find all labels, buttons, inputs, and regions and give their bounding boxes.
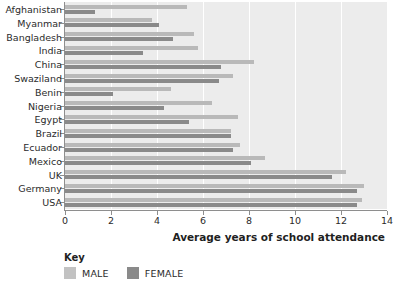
bar-mexico-male — [65, 156, 265, 160]
bar-egypt-female — [65, 120, 189, 124]
bar-bangladesh-male — [65, 32, 194, 36]
x-axis-title: Average years of school attendance — [0, 231, 385, 243]
bar-myanmar-female — [65, 23, 159, 27]
category-label-nigeria: Nigeria — [28, 100, 62, 111]
bar-myanmar-male — [65, 18, 152, 22]
bar-egypt-male — [65, 115, 238, 119]
bar-chart: 02468101214 AfghanistanMyanmarBangladesh… — [0, 0, 393, 289]
bar-usa-female — [65, 203, 357, 207]
category-label-uk: UK — [49, 169, 62, 180]
x-tick-label: 0 — [62, 215, 68, 226]
bar-nigeria-male — [65, 101, 212, 105]
category-label-china: China — [35, 59, 62, 70]
category-label-egypt: Egypt — [35, 114, 62, 125]
bar-ecuador-female — [65, 148, 233, 152]
bar-benin-male — [65, 87, 171, 91]
legend-label-female: FEMALE — [145, 268, 184, 279]
category-label-germany: Germany — [18, 183, 62, 194]
x-axis-line — [64, 210, 387, 211]
legend-item-female[interactable]: FEMALE — [127, 267, 184, 279]
legend-items: MALEFEMALE — [64, 267, 183, 279]
gridline — [387, 2, 388, 209]
category-label-benin: Benin — [35, 86, 62, 97]
bar-swaziland-female — [65, 79, 219, 83]
bar-brazil-female — [65, 134, 231, 138]
x-tick-label: 14 — [381, 215, 393, 226]
legend: Key MALEFEMALE — [64, 252, 183, 279]
bar-swaziland-male — [65, 74, 233, 78]
category-label-india: India — [39, 45, 62, 56]
x-tick-label: 12 — [335, 215, 347, 226]
x-tick-label: 6 — [200, 215, 206, 226]
bar-india-female — [65, 51, 143, 55]
legend-title: Key — [64, 252, 183, 263]
x-tick-label: 8 — [246, 215, 252, 226]
bar-afghanistan-female — [65, 10, 95, 14]
bar-uk-male — [65, 170, 346, 174]
bar-china-male — [65, 60, 254, 64]
x-tick-label: 10 — [289, 215, 301, 226]
legend-swatch-female — [127, 267, 139, 279]
category-label-usa: USA — [42, 197, 62, 208]
bar-afghanistan-male — [65, 5, 187, 9]
category-label-ecuador: Ecuador — [23, 141, 62, 152]
category-label-bangladesh: Bangladesh — [6, 31, 62, 42]
bar-china-female — [65, 65, 221, 69]
bar-germany-female — [65, 189, 357, 193]
x-tick-label: 2 — [108, 215, 114, 226]
legend-item-male[interactable]: MALE — [64, 267, 109, 279]
bar-bangladesh-female — [65, 37, 173, 41]
bar-benin-female — [65, 92, 113, 96]
legend-swatch-male — [64, 267, 76, 279]
category-label-afghanistan: Afghanistan — [5, 3, 62, 14]
bar-ecuador-male — [65, 143, 240, 147]
legend-label-male: MALE — [82, 268, 109, 279]
category-label-myanmar: Myanmar — [17, 17, 62, 28]
bar-mexico-female — [65, 161, 251, 165]
bar-brazil-male — [65, 129, 231, 133]
bar-germany-male — [65, 184, 364, 188]
x-tick-label: 4 — [154, 215, 160, 226]
bar-uk-female — [65, 175, 332, 179]
category-label-swaziland: Swaziland — [14, 72, 62, 83]
category-label-brazil: Brazil — [35, 128, 62, 139]
gridline — [341, 2, 342, 209]
bar-usa-male — [65, 198, 362, 202]
bar-india-male — [65, 46, 198, 50]
category-label-mexico: Mexico — [29, 155, 62, 166]
bar-nigeria-female — [65, 106, 164, 110]
